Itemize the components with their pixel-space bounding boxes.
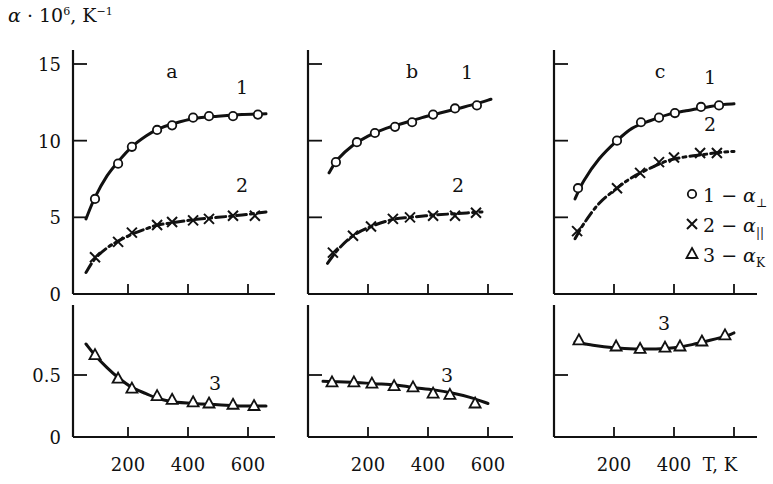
y-tick-label: 0.5 xyxy=(32,365,61,386)
x-axis-label: T, K xyxy=(703,454,738,475)
y-tick-label: 10 xyxy=(38,131,61,152)
circle-marker xyxy=(574,184,582,192)
circle-marker xyxy=(91,195,99,203)
curve-label-3: 3 xyxy=(209,372,221,394)
fit-curve xyxy=(86,344,266,406)
curve-label-2: 2 xyxy=(704,113,716,135)
circle-marker xyxy=(332,158,340,166)
circle-marker xyxy=(715,101,723,109)
circle-marker xyxy=(688,190,696,198)
y-tick-label: 5 xyxy=(50,207,61,228)
legend-entry: 3 − αK xyxy=(703,244,766,270)
circle-marker xyxy=(153,126,161,134)
fit-curve xyxy=(329,99,491,173)
circle-marker xyxy=(254,110,262,118)
curve-label-1: 1 xyxy=(461,61,473,83)
legend-entry: 2 − α|| xyxy=(703,214,764,240)
curve-label-1: 1 xyxy=(236,76,248,98)
triangle-marker xyxy=(152,390,163,400)
x-tick-label: 200 xyxy=(351,454,385,475)
fit-curve xyxy=(323,381,488,403)
panel-label: c xyxy=(655,60,666,82)
circle-marker xyxy=(114,159,122,167)
circle-marker xyxy=(353,138,361,146)
circle-marker xyxy=(128,143,136,151)
circle-marker xyxy=(371,129,379,137)
cross-marker xyxy=(612,183,622,193)
circle-marker xyxy=(671,109,679,117)
circle-marker xyxy=(613,136,621,144)
circle-marker xyxy=(168,121,176,129)
circle-marker xyxy=(205,112,213,120)
cross-marker xyxy=(635,168,645,178)
y-tick-label: 0 xyxy=(50,284,61,305)
y-tick-label: 0 xyxy=(50,427,61,448)
y-tick-label: 15 xyxy=(38,54,61,75)
circle-marker xyxy=(429,110,437,118)
curve-label-1: 1 xyxy=(704,66,716,88)
x-tick-label: 400 xyxy=(171,454,205,475)
circle-marker xyxy=(655,113,663,121)
x-tick-label: 400 xyxy=(411,454,445,475)
panel-label: b xyxy=(406,60,418,82)
fit-curve xyxy=(86,114,266,219)
circle-marker xyxy=(451,104,459,112)
x-tick-label: 600 xyxy=(471,454,505,475)
circle-marker xyxy=(391,123,399,131)
triangle-marker xyxy=(188,396,199,406)
cross-marker xyxy=(687,219,697,229)
circle-marker xyxy=(697,103,705,111)
legend-entry: 1 − α⊥ xyxy=(703,184,767,210)
triangle-marker xyxy=(167,394,178,404)
curve-label-2: 2 xyxy=(236,174,248,196)
cross-marker xyxy=(348,231,358,241)
circle-marker xyxy=(408,118,416,126)
circle-marker xyxy=(637,118,645,126)
x-tick-label: 600 xyxy=(231,454,265,475)
triangle-marker xyxy=(660,342,671,352)
x-tick-label: 200 xyxy=(111,454,145,475)
circle-marker xyxy=(229,112,237,120)
x-tick-label: 400 xyxy=(657,454,691,475)
curve-label-3: 3 xyxy=(658,312,670,334)
circle-marker xyxy=(473,101,481,109)
legend: 1 − α⊥2 − α||3 − αK xyxy=(687,184,768,270)
curve-label-2: 2 xyxy=(452,174,464,196)
panel-b: 200400600b12 xyxy=(308,50,513,475)
curve-label-3: 3 xyxy=(441,364,453,386)
triangle-marker xyxy=(611,340,622,350)
triangle-marker xyxy=(573,334,584,344)
fit-curve xyxy=(575,333,734,349)
x-tick-label: 200 xyxy=(597,454,631,475)
fit-curve xyxy=(86,212,266,273)
panel-label: a xyxy=(166,60,177,82)
circle-marker xyxy=(189,113,197,121)
triangle-marker xyxy=(687,248,698,258)
cross-marker xyxy=(366,222,376,232)
panel-a: 20040060005101500.5a12 xyxy=(32,50,275,475)
triangle-marker xyxy=(204,398,215,408)
triangle-marker xyxy=(228,399,239,409)
cross-marker xyxy=(250,211,260,221)
chart-canvas: 20040060005101500.5a12200400600b12200400… xyxy=(0,0,773,484)
